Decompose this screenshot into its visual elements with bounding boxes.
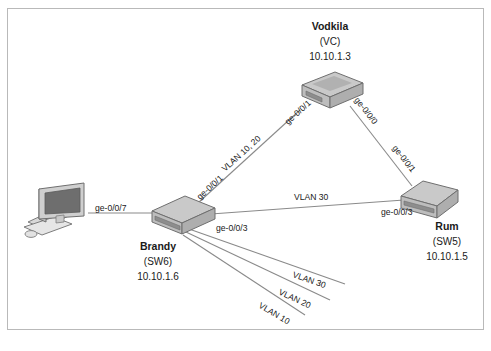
link-brandy-rum [211, 200, 404, 214]
vodkila-alias: (VC) [320, 36, 341, 47]
link-lines [88, 106, 412, 315]
port-label-ge-0-0-7: ge-0/0/7 [95, 203, 127, 213]
port-label-vodkila-ge-0-0-0: ge-0/0/0 [352, 95, 379, 126]
port-label-rum-ge-0-0-1: ge-0/0/1 [390, 143, 417, 174]
workstation-neck [56, 215, 64, 223]
vodkila-ip: 10.10.1.3 [309, 51, 351, 62]
port-label-brandy-ge-0-0-1: ge-0/0/1 [195, 173, 225, 202]
port-label-vodkila-ge-0-0-1: ge-0/0/1 [283, 98, 313, 127]
brandy-ip: 10.10.1.6 [137, 271, 179, 282]
rum-ip: 10.10.1.5 [426, 251, 468, 262]
vlan-label-30-link: VLAN 30 [294, 192, 329, 202]
workstation-screen [45, 188, 80, 214]
trail-label-vlan-20: VLAN 20 [277, 287, 313, 311]
vodkila-name: Vodkila [312, 20, 349, 32]
brandy-alias: (SW6) [144, 256, 172, 267]
rum-name: Rum [435, 220, 458, 232]
port-label-rum-ge-0-0-3: ge-0/0/3 [381, 207, 413, 217]
network-diagram-figure: Vodkila (VC) 10.10.1.3 Brandy (SW6) 10.1… [0, 0, 491, 351]
workstation-mouse [25, 231, 37, 238]
diagram-canvas: Vodkila (VC) 10.10.1.3 Brandy (SW6) 10.1… [0, 0, 491, 351]
vlan-label-10-20: VLAN 10, 20 [220, 133, 263, 173]
trail-line-vlan-10 [183, 235, 305, 315]
text-labels: Vodkila (VC) 10.10.1.3 Brandy (SW6) 10.1… [95, 20, 468, 327]
workstation-icon [24, 183, 84, 237]
device-brandy [152, 196, 215, 234]
trail-line-vlan-20 [186, 232, 330, 300]
trail-line-vlan-30 [189, 229, 345, 284]
port-label-brandy-ge-0-0-3: ge-0/0/3 [216, 223, 248, 233]
rum-alias: (SW5) [433, 236, 461, 247]
brandy-name: Brandy [140, 240, 176, 252]
link-vodkila-rum [350, 106, 412, 186]
trail-label-vlan-10: VLAN 10 [257, 300, 292, 326]
trail-label-vlan-30: VLAN 30 [291, 269, 327, 290]
